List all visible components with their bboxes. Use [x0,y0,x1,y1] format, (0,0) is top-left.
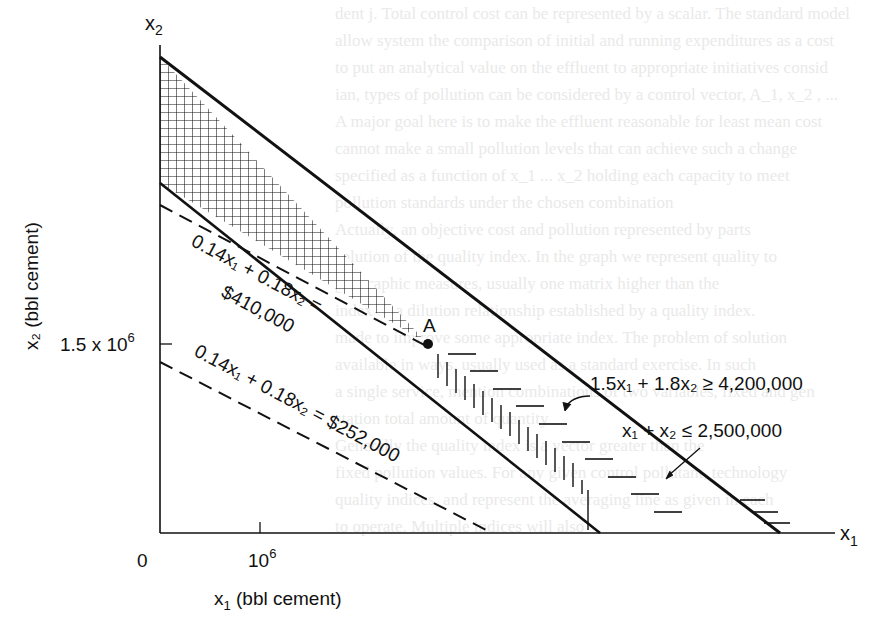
point-a-label: A [423,315,436,336]
pollution-arrow-head-icon [563,402,571,411]
x-axis-title: x1 (bbl cement) [214,588,342,613]
optimal-point-a [423,339,433,349]
origin-label: 0 [137,550,148,571]
y-axis-title: x₂ (bbl cement) [21,222,42,350]
y-axis-symbol: x2 [145,12,163,38]
lp-graph: x2 x1 0 106 1.5 x 106 x₂ (bbl cement) x1… [0,0,871,629]
isocost-252000-label: 0.14x₁ + 0.18x₂ = $252,000 [191,340,403,466]
isocost-252000-line [160,362,492,533]
y-tick-label: 1.5 x 106 [60,330,135,355]
capacity-constraint-label: x₁ + x₂ ≤ 2,500,000 [622,420,782,441]
pollution-constraint-label: 1.5x₁ + 1.8x₂ ≥ 4,200,000 [590,373,803,394]
x-tick-label: 106 [248,546,276,571]
x-axis-symbol: x1 [840,522,858,549]
